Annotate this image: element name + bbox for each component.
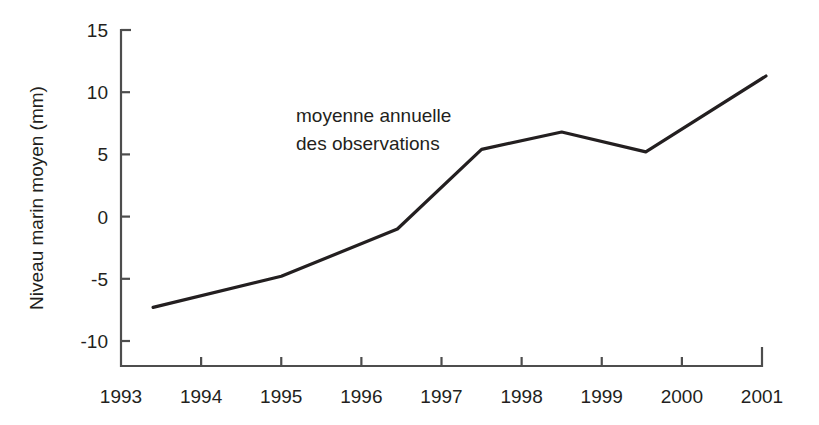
x-tick-label: 1997 xyxy=(420,386,462,407)
x-tick-label: 1994 xyxy=(180,386,223,407)
series-annotation: moyenne annuelle des observations xyxy=(296,105,451,154)
x-tick-label: 2000 xyxy=(661,386,703,407)
sea-level-chart: 151050-5-10 1993199419951996199719981999… xyxy=(0,0,819,425)
x-axis-tickmarks xyxy=(201,357,682,366)
y-tick-label: -5 xyxy=(91,269,108,290)
x-tick-label: 1998 xyxy=(500,386,542,407)
x-tick-label: 1996 xyxy=(340,386,382,407)
y-tick-label: 0 xyxy=(97,207,108,228)
x-tick-label: 1995 xyxy=(260,386,302,407)
x-axis-tick-labels: 199319941995199619971998199920002001 xyxy=(100,386,783,407)
y-tick-label: 15 xyxy=(87,20,108,41)
annotation-line-2: des observations xyxy=(296,133,440,154)
axis-spines xyxy=(121,30,762,366)
y-axis-tickmarks xyxy=(121,92,130,341)
x-tick-label: 1999 xyxy=(581,386,623,407)
annotation-line-1: moyenne annuelle xyxy=(296,105,451,126)
y-tick-label: -10 xyxy=(81,331,108,352)
chart-canvas: 151050-5-10 1993199419951996199719981999… xyxy=(0,0,819,425)
y-axis-title: Niveau marin moyen (mm) xyxy=(26,86,47,310)
y-tick-label: 5 xyxy=(97,144,108,165)
x-tick-label: 2001 xyxy=(741,386,783,407)
axes-group xyxy=(121,30,762,366)
y-tick-label: 10 xyxy=(87,82,108,103)
y-axis-tick-labels: 151050-5-10 xyxy=(81,20,108,352)
x-tick-label: 1993 xyxy=(100,386,142,407)
data-series-line-moyenne-annuelle xyxy=(153,76,766,307)
